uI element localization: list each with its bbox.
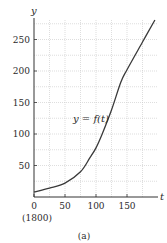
x-tick-label: 150	[118, 201, 135, 211]
y-axis-label: y	[30, 5, 37, 16]
grid-lines	[34, 20, 157, 197]
origin-year-label: (1800)	[22, 213, 52, 223]
curve-y-equals-f-of-t	[34, 20, 155, 192]
y-tick-label: 250	[13, 35, 30, 45]
x-tick-label: 50	[59, 201, 71, 211]
x-tick-label: 100	[87, 201, 104, 211]
y-tick-label: 200	[13, 66, 30, 76]
y-tick-label: 50	[19, 161, 31, 171]
x-axis-label: t	[160, 191, 165, 202]
chart: 05010015050100150200250 y t (1800) y = f…	[0, 0, 167, 243]
y-tick-label: 100	[13, 129, 30, 139]
figure-caption: (a)	[78, 231, 90, 241]
y-tick-label: 150	[13, 98, 30, 108]
curve-annotation: y = f(t)	[72, 113, 109, 124]
x-tick-label: 0	[31, 201, 37, 211]
